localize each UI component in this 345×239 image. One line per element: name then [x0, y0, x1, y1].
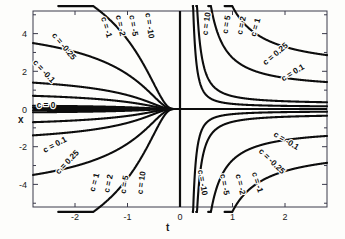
y-axis-label: x — [18, 114, 24, 125]
curve-label: c = -2 — [234, 173, 248, 196]
solution-curve — [196, 116, 327, 212]
solution-curves-plot: x t c = 0c = -0.1c = -0.25c = -1c = -2c … — [0, 0, 345, 239]
curve-label: c = 0.25 — [54, 148, 81, 176]
y-tick-label: -4 — [19, 180, 27, 190]
x-axis-label: t — [166, 222, 169, 233]
curve-label: c = -0.25 — [257, 147, 287, 176]
curve-label: c = 10 — [135, 170, 147, 194]
solution-curve — [193, 112, 327, 212]
curve-label: c = 5 — [221, 14, 233, 34]
curve-label: c = -1 — [250, 171, 265, 194]
y-tick-label: 0 — [22, 105, 27, 115]
y-tick-label: 4 — [22, 29, 27, 39]
curve-label: c = -1 — [99, 16, 114, 39]
x-tick-label: -1 — [123, 212, 131, 222]
curve-label: c = 2 — [235, 15, 248, 35]
y-tick-label: -2 — [19, 142, 27, 152]
curve-label: c = 2 — [102, 173, 115, 193]
curve-label: c = -5 — [127, 14, 140, 37]
x-tick-label: -2 — [71, 212, 79, 222]
x-tick-label: 2 — [282, 212, 287, 222]
curve-label: c = 0 — [37, 101, 56, 110]
y-tick-label: 2 — [22, 67, 27, 77]
curve-label: c = -10 — [143, 12, 156, 39]
curve-label: c = 1 — [249, 17, 263, 38]
x-tick-label: 1 — [230, 212, 235, 222]
curve-label: c = -5 — [218, 173, 231, 196]
curve-label: c = 1 — [88, 172, 102, 193]
curve-label: c = 5 — [119, 174, 131, 194]
curve-label: c = 10 — [200, 11, 212, 35]
plot-canvas: c = 0c = -0.1c = -0.25c = -1c = -2c = -5… — [0, 0, 345, 239]
x-tick-label: 0 — [177, 212, 182, 222]
curve-label: c = 0.1 — [42, 135, 69, 155]
